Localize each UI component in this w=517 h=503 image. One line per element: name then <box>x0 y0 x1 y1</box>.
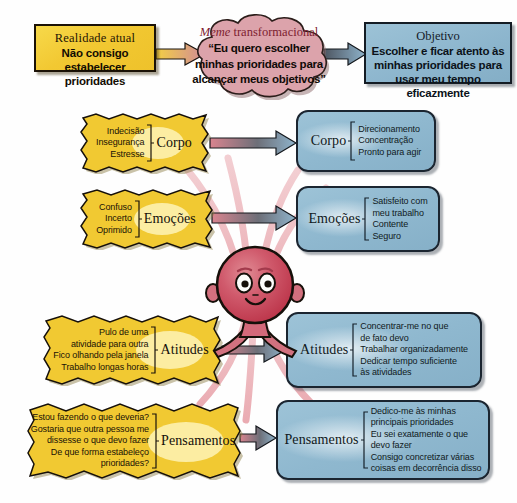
list-item: Dedico-me às minhas principais prioridad… <box>371 406 482 429</box>
current-reality-box: Realidade atual Não consigo estabelecer … <box>34 24 156 72</box>
meme-header-rest: transformacional <box>230 25 318 39</box>
list-item: Concentração <box>358 135 421 147</box>
meme-cloud: Meme transformacional “Eu quero escolher… <box>188 12 330 100</box>
corpo-solution-label: Corpo <box>311 133 347 149</box>
list-item: Eu sei exatamente o que devo fazer <box>371 429 482 452</box>
pensamentos-problem-items: Estou fazendo o que deveria? Gostaria qu… <box>31 412 149 470</box>
objective-box: Objetivo Escolher e ficar atento às minh… <box>364 22 512 84</box>
list-item: Seguro <box>372 231 427 243</box>
list-item: Trabalhar organizadamente <box>360 344 468 356</box>
emocoes-problem-items: Confuso Incerto Oprimido <box>96 202 132 237</box>
pensamentos-solution-items: Dedico-me às minhas principais prioridad… <box>371 406 482 475</box>
meme-line3: alcançar meus objetivos” <box>192 72 325 87</box>
arrow-corpo <box>210 131 296 155</box>
problem-burst-pensamentos: Estou fazendo o que deveria? Gostaria qu… <box>22 402 244 480</box>
objective-line1: Escolher e ficar atento às <box>370 44 506 58</box>
solution-box-atitudes: Atitudes Concentrar-me no que de fato de… <box>286 312 482 388</box>
list-item: Concentrar-me no que de fato devo <box>360 321 468 344</box>
corpo-solution-items: Direcionamento Concentração Pronto para … <box>358 124 421 159</box>
meme-header: Meme transformacional <box>200 25 318 40</box>
list-item: Gostaria que outra pessoa me dissesse o … <box>31 424 149 447</box>
emocoes-solution-items: Satisfeito com meu trabalho Contente Seg… <box>372 196 427 242</box>
list-item: Consigo concretizar várias coisas em dec… <box>371 452 482 475</box>
objective-header: Objetivo <box>370 29 506 44</box>
list-item: Indecisão <box>96 126 144 138</box>
problem-burst-atitudes: Pulo de uma atividade para outra Fico ol… <box>38 314 224 386</box>
list-item: Estresse <box>96 149 144 161</box>
list-item: Fico olhando pela janela <box>53 350 148 362</box>
current-reality-line2: estabelecer prioridades <box>40 60 150 88</box>
solution-box-pensamentos: Pensamentos Dedico-me às minhas principa… <box>276 400 490 480</box>
meme-header-italic: Meme <box>200 25 231 39</box>
diagram-canvas: Realidade atual Não consigo estabelecer … <box>0 0 517 503</box>
atitudes-problem-items: Pulo de uma atividade para outra Fico ol… <box>53 327 148 373</box>
arrow-emocoes <box>212 206 296 230</box>
problem-burst-corpo: Indecisão Insegurança Estresse Corpo <box>76 112 212 174</box>
brace-icon <box>362 197 370 241</box>
brace-icon <box>146 124 154 162</box>
list-item: Trabalho longas horas <box>53 362 148 374</box>
brace-icon <box>348 121 356 161</box>
solution-box-emocoes: Emoções Satisfeito com meu trabalho Cont… <box>296 186 440 252</box>
brace-icon <box>151 413 159 469</box>
arrow-pensamentos <box>240 426 276 450</box>
list-item: Contente <box>372 219 427 231</box>
list-item: Confuso <box>96 202 132 214</box>
list-item: Direcionamento <box>358 124 421 136</box>
corpo-problem-items: Indecisão Insegurança Estresse <box>96 126 144 161</box>
meme-line2: minhas prioridades para <box>195 57 323 72</box>
meme-line1: “Eu quero escolher <box>208 41 310 56</box>
list-item: Incerto <box>96 213 132 225</box>
pensamentos-solution-label: Pensamentos <box>284 432 358 448</box>
objective-line3: usar meu tempo eficazmente <box>370 72 506 100</box>
arrow-meme-to-objective <box>324 43 366 65</box>
list-item: Dedicar tempo suficiente às atividades <box>360 356 468 379</box>
brace-icon <box>134 200 142 238</box>
brace-icon <box>150 326 158 374</box>
round-head-figure-icon <box>200 245 310 365</box>
emocoes-solution-label: Emoções <box>308 211 360 227</box>
list-item: De que forma estabeleço prioridades? <box>31 447 149 470</box>
current-reality-header: Realidade atual <box>40 31 150 46</box>
problem-burst-emocoes: Confuso Incerto Oprimido Emoções <box>76 188 216 250</box>
brace-icon <box>350 323 358 377</box>
emocoes-problem-label: Emoções <box>144 211 196 227</box>
atitudes-solution-items: Concentrar-me no que de fato devo Trabal… <box>360 321 468 379</box>
solution-box-corpo: Corpo Direcionamento Concentração Pronto… <box>296 110 436 172</box>
list-item: Pronto para agir <box>358 147 421 159</box>
objective-line2: minhas prioridades para <box>370 58 506 72</box>
corpo-problem-label: Corpo <box>156 135 192 151</box>
brace-icon <box>361 411 369 469</box>
list-item: Estou fazendo o que deveria? <box>31 412 149 424</box>
list-item: Satisfeito com meu trabalho <box>372 196 427 219</box>
pensamentos-problem-label: Pensamentos <box>161 433 235 449</box>
current-reality-line1: Não consigo <box>40 46 150 60</box>
list-item: Insegurança <box>96 137 144 149</box>
list-item: Pulo de uma atividade para outra <box>53 327 148 350</box>
list-item: Oprimido <box>96 225 132 237</box>
